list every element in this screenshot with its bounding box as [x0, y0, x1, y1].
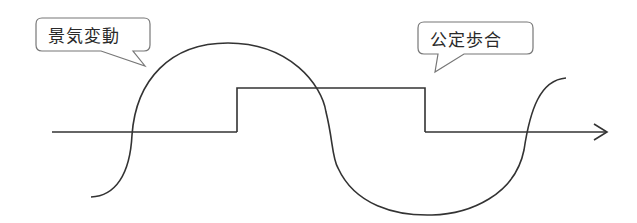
discount-rate-step-line [237, 88, 425, 132]
callout-label-business-fluctuation: 景気変動 [48, 22, 120, 47]
business-cycle-wave [91, 43, 566, 215]
economic-cycle-diagram: 景気変動 公定歩合 [0, 0, 637, 223]
callout-label-official-discount-rate: 公定歩合 [430, 26, 502, 51]
